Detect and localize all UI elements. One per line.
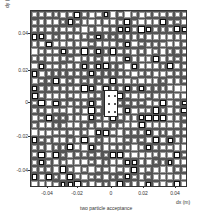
acceptance-bin bbox=[103, 27, 109, 33]
acceptance-bin bbox=[74, 144, 80, 150]
x-tick bbox=[175, 186, 176, 188]
acceptance-bin bbox=[67, 41, 73, 47]
acceptance-bin bbox=[182, 49, 187, 55]
acceptance-bin bbox=[39, 130, 45, 136]
acceptance-bin bbox=[61, 123, 66, 128]
acceptance-bin bbox=[82, 79, 86, 83]
acceptance-bin bbox=[146, 19, 152, 25]
x-tick-label: -0.02 bbox=[71, 190, 82, 196]
acceptance-bin bbox=[117, 49, 123, 55]
acceptance-bin bbox=[81, 48, 87, 54]
acceptance-bin bbox=[131, 122, 137, 128]
acceptance-bin bbox=[82, 130, 86, 134]
acceptance-bin bbox=[68, 93, 73, 98]
acceptance-bin bbox=[182, 79, 187, 84]
acceptance-bin bbox=[46, 138, 51, 143]
acceptance-bin bbox=[139, 174, 145, 180]
acceptance-bin bbox=[132, 181, 138, 187]
hole-dot bbox=[108, 111, 110, 113]
acceptance-bin bbox=[132, 175, 137, 180]
acceptance-bin bbox=[54, 116, 59, 121]
acceptance-bin bbox=[96, 57, 101, 62]
acceptance-bin bbox=[75, 115, 81, 121]
acceptance-bin bbox=[46, 167, 51, 172]
acceptance-bin bbox=[89, 49, 94, 54]
x-tick-label: 0.02 bbox=[138, 190, 148, 196]
acceptance-bin bbox=[74, 93, 80, 99]
acceptance-bin bbox=[139, 145, 144, 150]
acceptance-bin bbox=[32, 145, 38, 151]
acceptance-bin bbox=[160, 174, 166, 180]
acceptance-bin bbox=[96, 49, 101, 54]
acceptance-bin bbox=[110, 166, 116, 172]
acceptance-bin bbox=[74, 34, 80, 40]
acceptance-bin bbox=[132, 138, 137, 143]
acceptance-bin bbox=[153, 167, 159, 173]
acceptance-bin bbox=[54, 35, 58, 39]
acceptance-bin bbox=[82, 71, 87, 76]
acceptance-bin bbox=[53, 86, 59, 92]
acceptance-bin bbox=[167, 166, 173, 172]
acceptance-bin bbox=[117, 129, 123, 135]
acceptance-bin bbox=[89, 78, 94, 83]
acceptance-bin bbox=[96, 159, 102, 165]
acceptance-bin bbox=[160, 145, 165, 150]
acceptance-bin bbox=[88, 166, 94, 172]
acceptance-bin bbox=[75, 137, 80, 142]
acceptance-bin bbox=[132, 20, 137, 25]
acceptance-bin bbox=[124, 167, 130, 173]
acceptance-bin bbox=[146, 78, 152, 84]
acceptance-bin bbox=[175, 78, 180, 83]
acceptance-bin bbox=[146, 100, 152, 106]
acceptance-bin bbox=[81, 159, 87, 165]
acceptance-bin bbox=[47, 71, 51, 75]
acceptance-bin bbox=[153, 12, 158, 17]
acceptance-bin bbox=[60, 34, 65, 39]
acceptance-bin bbox=[104, 34, 109, 39]
acceptance-bin bbox=[75, 27, 80, 32]
acceptance-bin bbox=[139, 108, 145, 114]
acceptance-bin bbox=[53, 130, 58, 135]
acceptance-bin bbox=[153, 19, 159, 25]
acceptance-bin bbox=[32, 123, 38, 129]
acceptance-bin bbox=[104, 71, 109, 76]
acceptance-bin bbox=[89, 160, 94, 165]
acceptance-bin bbox=[46, 160, 51, 165]
acceptance-bin bbox=[153, 71, 159, 77]
acceptance-bin bbox=[174, 85, 180, 91]
acceptance-bin bbox=[175, 49, 180, 54]
acceptance-bin bbox=[139, 12, 145, 18]
acceptance-bin bbox=[74, 122, 80, 128]
y-tick bbox=[28, 102, 30, 103]
acceptance-bin bbox=[54, 12, 59, 17]
hole-dot bbox=[114, 95, 116, 97]
acceptance-bin bbox=[39, 174, 45, 180]
acceptance-bin bbox=[60, 12, 66, 18]
acceptance-bin bbox=[175, 130, 180, 135]
acceptance-bin bbox=[68, 34, 73, 39]
x-axis-label: dx (m) bbox=[176, 199, 190, 205]
x-tick bbox=[143, 186, 144, 188]
acceptance-bin bbox=[131, 167, 137, 173]
acceptance-bin bbox=[81, 115, 87, 121]
acceptance-bin bbox=[132, 12, 137, 17]
acceptance-bin bbox=[68, 57, 73, 62]
acceptance-bin bbox=[67, 122, 73, 128]
y-tick-label: 0.04 bbox=[18, 30, 28, 36]
acceptance-bin bbox=[146, 175, 151, 180]
acceptance-bin bbox=[103, 130, 109, 136]
acceptance-bin bbox=[124, 152, 130, 158]
acceptance-bin bbox=[181, 34, 187, 40]
acceptance-bin bbox=[160, 100, 166, 106]
acceptance-bin bbox=[125, 34, 131, 40]
acceptance-bin bbox=[175, 167, 180, 172]
acceptance-bin bbox=[89, 27, 93, 31]
acceptance-bin bbox=[168, 12, 173, 17]
acceptance-bin bbox=[31, 48, 37, 54]
acceptance-bin bbox=[182, 71, 187, 76]
acceptance-bin bbox=[146, 167, 151, 172]
x-tick-label: -0.04 bbox=[41, 190, 52, 196]
acceptance-bin bbox=[146, 108, 151, 113]
acceptance-bin bbox=[146, 86, 151, 91]
acceptance-bin bbox=[132, 130, 137, 135]
